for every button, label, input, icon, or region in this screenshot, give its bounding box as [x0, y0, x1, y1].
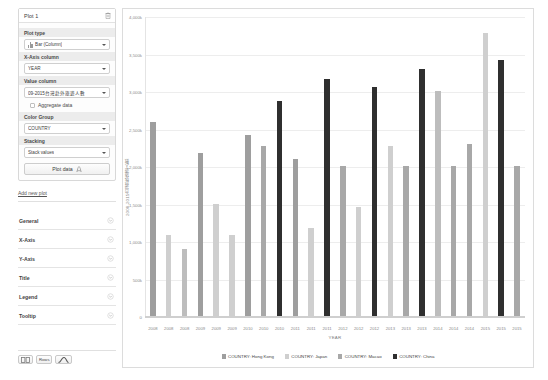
chart-icon — [58, 357, 69, 363]
x-axis-tick-label: 2011 — [287, 326, 303, 331]
section-y-axis[interactable]: Y-Axis — [18, 249, 116, 268]
x-axis-ticks: 2008200820082009200920092010201020102011… — [145, 326, 525, 331]
chart-view-button[interactable] — [55, 355, 72, 364]
x-axis-tick-label: 2015 — [477, 326, 493, 331]
stacking-label: Stacking — [19, 136, 115, 145]
plot-card-header: Plot 1 — [19, 9, 115, 23]
chart-bar[interactable] — [277, 101, 283, 316]
chevron-down-icon — [107, 236, 114, 243]
legend-item[interactable]: COUNTRY: Hong Kong — [222, 354, 274, 359]
x-axis-column-value: YEAR — [28, 66, 41, 71]
chart-bar[interactable] — [356, 207, 362, 316]
x-axis-tick-label: 2015 — [493, 326, 509, 331]
legend-item[interactable]: COUNTRY: Macao — [338, 354, 382, 359]
chart-bar[interactable] — [340, 166, 346, 316]
color-group-select[interactable]: COUNTRY — [24, 123, 110, 134]
chart-bar[interactable] — [435, 91, 441, 316]
x-axis-tick-label: 2014 — [462, 326, 478, 331]
plot-type-value: Bar (Column) — [35, 42, 62, 47]
chevron-down-icon — [102, 68, 106, 70]
x-axis-tick-label: 2013 — [414, 326, 430, 331]
bar-slot — [272, 17, 288, 316]
chart-bar[interactable] — [483, 33, 489, 316]
plot-type-select[interactable]: Bar (Column) — [24, 39, 110, 50]
plot-data-label: Plot data — [52, 166, 72, 172]
y-axis-tick-label: 500k — [133, 277, 142, 282]
legend-item[interactable]: COUNTRY: China — [393, 354, 435, 359]
bar-slot — [493, 17, 509, 316]
x-axis-tick-label: 2012 — [351, 326, 367, 331]
legend-item[interactable]: COUNTRY: Japan — [285, 354, 327, 359]
chevron-down-icon — [102, 128, 106, 130]
bar-slot — [161, 17, 177, 316]
chart-bar[interactable] — [372, 87, 378, 316]
x-axis-tick-label: 2013 — [382, 326, 398, 331]
color-group-label: Color Group — [19, 112, 115, 121]
add-new-plot-link[interactable]: Add new plot — [18, 190, 116, 202]
plot-card-title: Plot 1 — [24, 13, 38, 19]
y-axis-tick-label: 4,000k — [129, 15, 142, 20]
legend-swatch — [285, 354, 289, 359]
plot-data-button[interactable]: Plot data — [24, 163, 110, 175]
chart-bar[interactable] — [403, 166, 409, 316]
x-axis-tick-label: 2008 — [161, 326, 177, 331]
bar-slot — [287, 17, 303, 316]
chart-legend: COUNTRY: Hong KongCOUNTRY: JapanCOUNTRY:… — [123, 354, 533, 359]
value-column-label: Value column — [19, 76, 115, 85]
stacking-select[interactable]: Stack values — [24, 147, 110, 158]
aggregate-data-label: Aggregate data — [38, 102, 72, 108]
plot-builder-app: Plot 1 Plot type Bar (Column) — [0, 0, 548, 380]
chart-bar[interactable] — [324, 79, 330, 316]
x-axis-title: YEAR — [145, 335, 525, 340]
chart-bar[interactable] — [229, 235, 235, 316]
bar-slot — [462, 17, 478, 316]
chart-bar[interactable] — [467, 144, 473, 316]
chart-bar[interactable] — [514, 166, 520, 316]
chart-bar[interactable] — [308, 228, 314, 316]
x-axis-tick-label: 2009 — [192, 326, 208, 331]
section-legend[interactable]: Legend — [18, 287, 116, 306]
y-axis-tick-label: 1,000k — [129, 240, 142, 245]
bar-slot — [145, 17, 161, 316]
chart-bar[interactable] — [245, 135, 251, 316]
chart-bar[interactable] — [451, 166, 457, 316]
chart-bar[interactable] — [293, 159, 299, 316]
rows-button[interactable]: Rows — [36, 355, 52, 364]
x-axis-column-label: X-Axis column — [19, 52, 115, 61]
section-x-axis[interactable]: X-Axis — [18, 230, 116, 249]
bottom-toolbar: Rows — [18, 350, 116, 364]
x-axis-column-select[interactable]: YEAR — [24, 63, 110, 74]
grid-view-button[interactable] — [18, 355, 33, 364]
section-tooltip[interactable]: Tooltip — [18, 306, 116, 325]
color-group-value: COUNTRY — [28, 126, 51, 131]
chart-bar[interactable] — [182, 249, 188, 316]
y-axis-tick-label: 3,000k — [129, 90, 142, 95]
bar-slot — [382, 17, 398, 316]
chart-bar[interactable] — [213, 204, 219, 316]
section-title[interactable]: Title — [18, 268, 116, 287]
chevron-down-icon — [107, 274, 114, 281]
aggregate-data-row[interactable]: Aggregate data — [24, 99, 110, 110]
chart-bar[interactable] — [388, 146, 394, 316]
chart-bar[interactable] — [261, 146, 267, 316]
trash-icon[interactable] — [105, 12, 111, 19]
chart-bar[interactable] — [498, 60, 504, 316]
chart-bar[interactable] — [419, 69, 425, 316]
section-general[interactable]: General — [18, 211, 116, 230]
chart-bar[interactable] — [166, 235, 172, 316]
x-axis-tick-label: 2010 — [240, 326, 256, 331]
plot-area: 0500k1,000k1,500k2,000k2,500k3,000k3,500… — [145, 17, 525, 317]
y-axis-tick-label: 3,500k — [129, 52, 142, 57]
chart-bar[interactable] — [198, 153, 204, 316]
x-axis-tick-label: 2008 — [177, 326, 193, 331]
bar-slot — [256, 17, 272, 316]
bar-slot — [477, 17, 493, 316]
x-axis-tick-label: 2009 — [208, 326, 224, 331]
aggregate-data-checkbox[interactable] — [30, 103, 35, 108]
x-axis-tick-label: 2010 — [272, 326, 288, 331]
section-general-label: General — [19, 218, 38, 224]
bar-slot — [351, 17, 367, 316]
chart-bar[interactable] — [150, 122, 156, 316]
chart-panel: 2008-2015台灣赴外旅遊人數 0500k1,000k1,500k2,000… — [122, 8, 534, 368]
value-column-select[interactable]: 09-2015台灣赴外旅遊人數 — [24, 87, 110, 98]
